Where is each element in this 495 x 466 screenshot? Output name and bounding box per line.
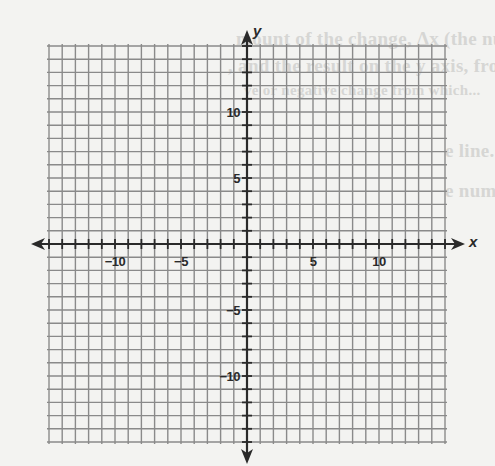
x-axis-label: x bbox=[469, 233, 477, 250]
x-tick-label: 10 bbox=[372, 254, 385, 269]
y-axis-label: y bbox=[253, 22, 261, 39]
y-tick-label: −10 bbox=[219, 369, 240, 384]
axes bbox=[31, 30, 465, 464]
x-tick-label: −10 bbox=[105, 254, 126, 269]
x-tick-label: −5 bbox=[174, 254, 188, 269]
x-tick-label: 5 bbox=[310, 254, 317, 269]
y-tick-label: 5 bbox=[233, 171, 240, 186]
coordinate-plane bbox=[0, 0, 495, 466]
y-tick-label: 10 bbox=[227, 105, 240, 120]
y-tick-label: −5 bbox=[226, 303, 240, 318]
